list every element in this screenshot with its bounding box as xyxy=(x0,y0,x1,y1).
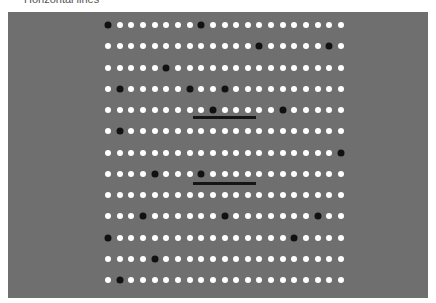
black-dot xyxy=(105,22,112,29)
white-dot xyxy=(140,277,146,283)
white-dot xyxy=(245,171,251,177)
white-dot xyxy=(315,107,321,113)
white-dot xyxy=(315,256,321,262)
white-dot xyxy=(222,107,228,113)
white-dot xyxy=(152,43,158,49)
white-dot xyxy=(128,86,134,92)
white-dot xyxy=(140,128,146,134)
white-dot xyxy=(338,235,344,241)
stimulus-panel xyxy=(8,12,428,298)
white-dot xyxy=(303,86,309,92)
white-dot xyxy=(163,277,169,283)
white-dot xyxy=(117,43,123,49)
white-dot xyxy=(175,65,181,71)
white-dot xyxy=(152,107,158,113)
white-dot xyxy=(303,213,309,219)
white-dot xyxy=(280,43,286,49)
white-dot xyxy=(245,86,251,92)
white-dot xyxy=(140,171,146,177)
white-dot xyxy=(256,65,262,71)
white-dot xyxy=(128,235,134,241)
white-dot xyxy=(187,192,193,198)
white-dot xyxy=(338,43,344,49)
black-dot xyxy=(209,107,216,114)
white-dot xyxy=(268,235,274,241)
white-dot xyxy=(210,277,216,283)
white-dot xyxy=(338,256,344,262)
white-dot xyxy=(117,107,123,113)
white-dot xyxy=(315,277,321,283)
black-dot xyxy=(198,170,205,177)
white-dot xyxy=(303,256,309,262)
white-dot xyxy=(163,192,169,198)
white-dot xyxy=(256,235,262,241)
white-dot xyxy=(210,65,216,71)
white-dot xyxy=(222,65,228,71)
white-dot xyxy=(245,22,251,28)
white-dot xyxy=(256,192,262,198)
white-dot xyxy=(245,256,251,262)
black-dot xyxy=(221,213,228,220)
white-dot xyxy=(175,192,181,198)
white-dot xyxy=(152,277,158,283)
black-dot xyxy=(151,170,158,177)
white-dot xyxy=(140,86,146,92)
white-dot xyxy=(245,150,251,156)
white-dot xyxy=(245,213,251,219)
white-dot xyxy=(222,150,228,156)
black-dot xyxy=(256,43,263,50)
white-dot xyxy=(140,107,146,113)
white-dot xyxy=(222,277,228,283)
white-dot xyxy=(105,150,111,156)
white-dot xyxy=(268,43,274,49)
white-dot xyxy=(187,128,193,134)
white-dot xyxy=(198,86,204,92)
white-dot xyxy=(210,192,216,198)
white-dot xyxy=(280,192,286,198)
white-dot xyxy=(233,235,239,241)
white-dot xyxy=(117,213,123,219)
white-dot xyxy=(338,22,344,28)
black-dot xyxy=(279,107,286,114)
white-dot xyxy=(163,107,169,113)
white-dot xyxy=(163,150,169,156)
white-dot xyxy=(140,235,146,241)
white-dot xyxy=(152,150,158,156)
white-dot xyxy=(291,192,297,198)
white-dot xyxy=(338,65,344,71)
white-dot xyxy=(338,192,344,198)
black-dot xyxy=(326,43,333,50)
white-dot xyxy=(105,86,111,92)
white-dot xyxy=(233,256,239,262)
white-dot xyxy=(256,171,262,177)
white-dot xyxy=(105,107,111,113)
white-dot xyxy=(233,213,239,219)
white-dot xyxy=(175,107,181,113)
white-dot xyxy=(326,22,332,28)
white-dot xyxy=(175,235,181,241)
white-dot xyxy=(315,192,321,198)
white-dot xyxy=(256,256,262,262)
white-dot xyxy=(268,150,274,156)
black-dot xyxy=(221,85,228,92)
white-dot xyxy=(175,277,181,283)
white-dot xyxy=(128,128,134,134)
white-dot xyxy=(175,256,181,262)
white-dot xyxy=(280,256,286,262)
white-dot xyxy=(222,192,228,198)
white-dot xyxy=(233,277,239,283)
white-dot xyxy=(187,256,193,262)
white-dot xyxy=(233,43,239,49)
white-dot xyxy=(291,22,297,28)
white-dot xyxy=(128,192,134,198)
white-dot xyxy=(117,22,123,28)
white-dot xyxy=(175,171,181,177)
black-dot xyxy=(314,213,321,220)
white-dot xyxy=(140,22,146,28)
white-dot xyxy=(291,65,297,71)
white-dot xyxy=(303,171,309,177)
white-dot xyxy=(245,235,251,241)
white-dot xyxy=(105,171,111,177)
white-dot xyxy=(291,128,297,134)
white-dot xyxy=(326,107,332,113)
